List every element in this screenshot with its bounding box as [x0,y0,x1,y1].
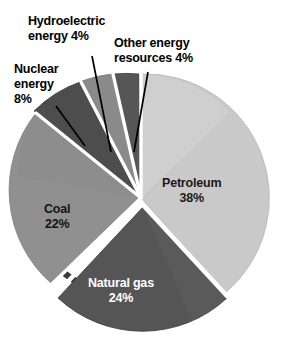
slice-label-nuclear-line3: 8% [14,92,58,107]
slice-label-hydroelectric-energy: Hydroelectric energy 4% [28,14,105,44]
slice-label-other-line2: resources 4% [114,51,193,66]
slice-label-natural-gas: Natural gas 24% [88,276,154,306]
slice-label-natural-gas-name: Natural gas [88,276,154,290]
slice-label-petroleum: Petroleum 38% [162,176,221,206]
slice-label-coal-value: 22% [44,217,70,232]
slice-label-petroleum-name: Petroleum [162,176,221,190]
slice-label-nuclear-energy: Nuclear energy 8% [14,62,58,106]
slice-label-other-line1: Other energy [114,36,189,50]
slice-label-natural-gas-value: 24% [88,291,154,306]
pie-chart: Hydroelectric energy 4% Other energy res… [0,0,283,358]
slice-label-hydroelectric-line2: energy 4% [28,29,105,44]
slice-label-nuclear-line2: energy [14,77,58,92]
slice-label-coal: Coal 22% [44,202,70,232]
slice-label-hydroelectric-line1: Hydroelectric [28,14,105,28]
slice-label-nuclear-line1: Nuclear [14,62,58,76]
slice-label-other-energy-resources: Other energy resources 4% [114,36,193,66]
slice-label-coal-name: Coal [44,202,70,216]
slice-label-petroleum-value: 38% [162,191,221,206]
